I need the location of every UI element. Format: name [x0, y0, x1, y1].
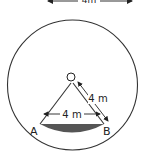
point-b-label: B [103, 125, 111, 138]
chord-length-label: 4 m [62, 109, 81, 120]
center-point-icon [67, 73, 75, 81]
top-length-label: 4m [82, 0, 97, 5]
shaded-segment [40, 124, 104, 132]
top-dimension-cropped: 4m [48, 0, 132, 5]
circle-segment-diagram: 4m 4 m 4 m A B [0, 0, 145, 161]
radius-length-label: 4 m [88, 93, 107, 104]
point-a-label: A [30, 125, 38, 138]
